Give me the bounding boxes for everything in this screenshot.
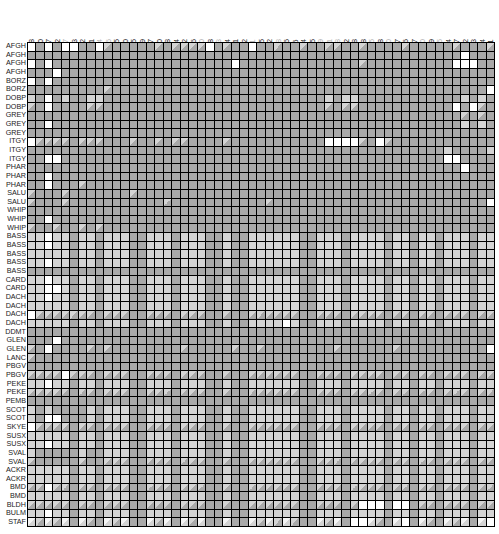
- heatmap-cell: [368, 199, 376, 207]
- heatmap-cell: [359, 328, 366, 336]
- heatmap-cell: [308, 78, 316, 86]
- heatmap-cell: [283, 423, 290, 431]
- heatmap-cell: [334, 285, 341, 293]
- heatmap-cell: [249, 233, 257, 241]
- heatmap-cell: [181, 112, 188, 120]
- heatmap-cell: [461, 510, 468, 518]
- heatmap-cell: [223, 233, 231, 241]
- heatmap-cell: [70, 345, 77, 353]
- heatmap-cell: [104, 466, 112, 474]
- heatmap-cell: [130, 320, 137, 328]
- heatmap-cell: [28, 138, 35, 146]
- heatmap-cell: [274, 458, 281, 466]
- heatmap-cell: [249, 406, 257, 414]
- heatmap-cell: [385, 389, 392, 397]
- heatmap-cell: [317, 216, 324, 224]
- heatmap-cell: [274, 164, 281, 172]
- heatmap-cell: [257, 155, 264, 163]
- heatmap-cell: [393, 475, 401, 483]
- heatmap-cell: [147, 510, 155, 518]
- heatmap-cell: [215, 268, 222, 276]
- heatmap-cell: [223, 441, 231, 449]
- heatmap-cell: [427, 484, 435, 492]
- heatmap-cell: [478, 69, 485, 77]
- heatmap-cell: [393, 484, 401, 492]
- heatmap-cell: [308, 285, 316, 293]
- heatmap-cell: [436, 294, 443, 302]
- heatmap-cell: [419, 510, 426, 518]
- heatmap-cell: [53, 147, 60, 155]
- heatmap-cell: [147, 121, 155, 129]
- heatmap-cell: [206, 518, 214, 526]
- heatmap-cell: [130, 371, 137, 379]
- heatmap-cell: [300, 129, 307, 137]
- heatmap-cell: [113, 250, 120, 258]
- heatmap-cell: [62, 173, 70, 181]
- heatmap-cell: [147, 242, 155, 250]
- heatmap-cell: [147, 43, 155, 51]
- heatmap-cell: [308, 69, 316, 77]
- heatmap-cell: [257, 199, 264, 207]
- heatmap-cell: [147, 52, 155, 60]
- heatmap-cell: [240, 406, 247, 414]
- heatmap-cell: [28, 397, 35, 405]
- heatmap-cell: [232, 363, 239, 371]
- heatmap-cell: [198, 129, 205, 137]
- heatmap-cell: [308, 389, 316, 397]
- heatmap-cell: [257, 294, 264, 302]
- heatmap-cell: [436, 397, 443, 405]
- heatmap-cell: [419, 276, 426, 284]
- heatmap-cell: [223, 475, 231, 483]
- heatmap-cell: [53, 95, 60, 103]
- heatmap-cell: [436, 466, 443, 474]
- heatmap-cell: [249, 441, 257, 449]
- heatmap-cell: [87, 121, 95, 129]
- heatmap-cell: [274, 138, 281, 146]
- heatmap-cell: [274, 501, 281, 509]
- row-label: STAF: [0, 518, 27, 527]
- heatmap-cell: [45, 242, 53, 250]
- heatmap-cell: [36, 354, 43, 362]
- heatmap-cell: [393, 147, 401, 155]
- heatmap-cell: [215, 233, 222, 241]
- heatmap-cell: [368, 328, 376, 336]
- heatmap-cell: [240, 259, 247, 267]
- heatmap-cell: [470, 207, 478, 215]
- heatmap-cell: [79, 363, 86, 371]
- heatmap-cell: [436, 501, 443, 509]
- heatmap-cell: [45, 121, 53, 129]
- heatmap-cell: [334, 112, 341, 120]
- heatmap-cell: [393, 501, 401, 509]
- column-label: 37579188: [334, 0, 343, 40]
- heatmap-cell: [427, 380, 435, 388]
- heatmap-cell: [206, 259, 214, 267]
- heatmap-cell: [62, 432, 70, 440]
- heatmap-cell: [181, 501, 188, 509]
- heatmap-cell: [130, 233, 137, 241]
- heatmap-cell: [266, 397, 274, 405]
- heatmap-cell: [189, 492, 197, 500]
- heatmap-cell: [53, 207, 60, 215]
- heatmap-cell: [147, 155, 155, 163]
- heatmap-cell: [45, 69, 53, 77]
- heatmap-cell: [376, 449, 383, 457]
- heatmap-cell: [461, 86, 468, 94]
- heatmap-cell: [172, 224, 179, 232]
- heatmap-cell: [28, 242, 35, 250]
- heatmap-cell: [206, 337, 214, 345]
- heatmap-cell: [249, 397, 257, 405]
- heatmap-cell: [300, 268, 307, 276]
- heatmap-cell: [317, 233, 324, 241]
- heatmap-cell: [419, 328, 426, 336]
- heatmap-cell: [376, 60, 383, 68]
- heatmap-cell: [36, 466, 43, 474]
- heatmap-cell: [325, 112, 333, 120]
- heatmap-cell: [181, 268, 188, 276]
- heatmap-cell: [317, 112, 324, 120]
- heatmap-cell: [215, 380, 222, 388]
- heatmap-cell: [410, 337, 418, 345]
- heatmap-cell: [478, 371, 485, 379]
- heatmap-cell: [223, 285, 231, 293]
- heatmap-cell: [342, 510, 349, 518]
- heatmap-cell: [223, 449, 231, 457]
